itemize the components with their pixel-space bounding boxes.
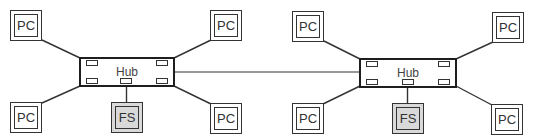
pc-label: PC (495, 108, 519, 131)
hub-label: Hub (361, 66, 455, 80)
pc-label: PC (214, 107, 238, 130)
link-hub1-pc-bottom-right (174, 86, 211, 104)
pc-label: PC (214, 14, 238, 37)
pc-label: PC (296, 15, 320, 38)
pc-node: PC (10, 102, 42, 133)
hub-port (402, 79, 414, 85)
pc-node: PC (210, 103, 242, 134)
pc-label: PC (496, 16, 520, 39)
link-hub1-pc-bottom-left (42, 86, 80, 103)
network-diagram: Hub PC PC PC FS PC Hub PC PC PC FS (0, 0, 535, 139)
file-server-label: FS (396, 107, 420, 130)
link-hub2-pc-bottom-right (456, 86, 492, 105)
hub-port (438, 79, 450, 85)
hub-port (120, 78, 132, 84)
link-hub2-pc-top-right (456, 42, 493, 59)
link-hub1-pc-top-right (174, 40, 211, 58)
pc-node: PC (292, 11, 324, 42)
link-hub1-pc-top-left (42, 40, 80, 58)
pc-node: PC (491, 104, 523, 135)
link-hub2-pc-top-left (324, 41, 360, 59)
file-server-node: FS (111, 102, 143, 133)
pc-node: PC (10, 10, 42, 41)
hub-label: Hub (81, 65, 173, 79)
hub-port (438, 61, 450, 67)
pc-node: PC (492, 12, 524, 43)
pc-label: PC (14, 106, 38, 129)
pc-node: PC (292, 103, 324, 134)
file-server-label: FS (115, 106, 139, 129)
hub-port (366, 79, 378, 85)
hub-port (156, 60, 168, 66)
hub-port (86, 78, 98, 84)
hub-port (366, 61, 378, 67)
pc-label: PC (296, 107, 320, 130)
hub-left: Hub (79, 57, 175, 87)
pc-node: PC (210, 10, 242, 41)
link-hub2-pc-bottom-left (323, 86, 360, 104)
pc-label: PC (14, 14, 38, 37)
hub-port (156, 78, 168, 84)
file-server-node: FS (392, 103, 424, 134)
hub-port (86, 60, 98, 66)
hub-right: Hub (359, 58, 457, 88)
